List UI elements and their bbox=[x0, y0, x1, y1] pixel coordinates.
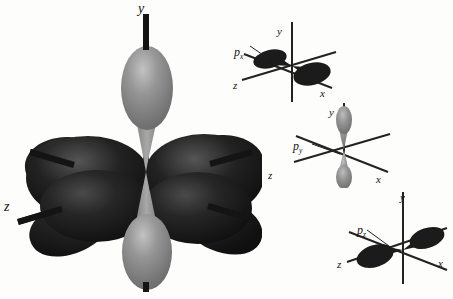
py-orbital-label: py bbox=[293, 140, 302, 155]
pz-orbital-label: pz bbox=[357, 224, 366, 239]
py-orbital-label-sub: y bbox=[299, 146, 302, 155]
p-orbital-figure: y z x y z x px bbox=[0, 0, 453, 299]
px-orbital-label-sub: x bbox=[240, 52, 243, 61]
px-axis-label-z: z bbox=[233, 80, 237, 91]
py-orbital-panel bbox=[292, 100, 397, 188]
pz-axis-label-y: y bbox=[400, 192, 405, 203]
px-axis-label-y: y bbox=[277, 26, 282, 37]
pz-orbital-label-sub: z bbox=[363, 230, 366, 239]
pz-axis-label-z: z bbox=[337, 259, 341, 270]
py-axis-label-y: y bbox=[329, 107, 334, 118]
main-axis-label-x: x bbox=[240, 205, 246, 219]
py-axis-label-x: x bbox=[376, 174, 381, 185]
main-axis-label-y: y bbox=[138, 2, 144, 16]
main-axis-label-z: z bbox=[4, 200, 9, 214]
pz-axis-label-x: x bbox=[438, 258, 443, 269]
px-orbital-panel bbox=[240, 18, 345, 103]
py-lobes bbox=[336, 106, 352, 188]
px-orbital-label: px bbox=[234, 46, 243, 61]
px-axis-label-x: x bbox=[320, 88, 325, 99]
main-orbital-diagram bbox=[0, 0, 262, 299]
py-axis-label-z: z bbox=[268, 170, 272, 181]
